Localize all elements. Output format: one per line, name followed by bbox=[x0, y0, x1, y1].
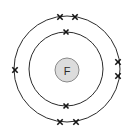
atom-diagram-svg: F bbox=[0, 0, 133, 138]
electron-outer-left bbox=[12, 67, 17, 72]
nucleus-element-symbol: F bbox=[64, 65, 71, 77]
electron-shell-diagram: F bbox=[0, 0, 133, 138]
